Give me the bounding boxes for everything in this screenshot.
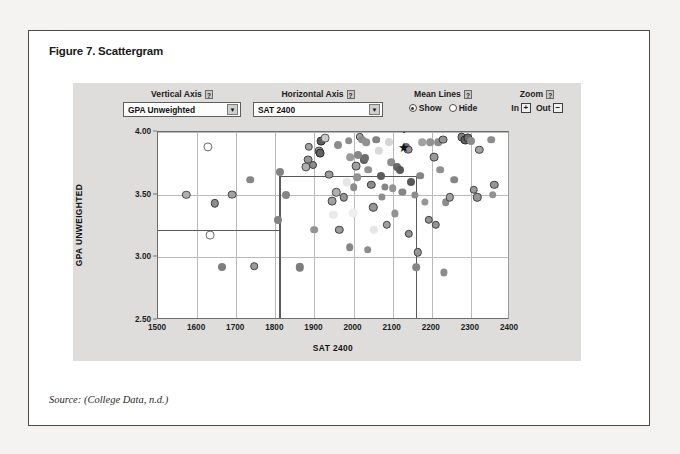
scatter-point[interactable] — [340, 193, 348, 201]
scatter-point[interactable] — [475, 145, 483, 153]
scatter-plot-canvas[interactable]: ★⬇YOU ARE HERE — [157, 131, 509, 319]
horizontal-axis-select[interactable]: SAT 2400 ▼ — [253, 102, 383, 117]
x-axis-tick-label: 1900 — [304, 323, 322, 332]
mean-lines-label: Mean Lines — [414, 89, 461, 99]
scatter-point[interactable] — [412, 264, 420, 272]
scatter-point[interactable] — [361, 154, 369, 162]
scatter-point[interactable] — [309, 161, 317, 169]
radio-icon-hide[interactable] — [449, 104, 457, 112]
zoom-out-item[interactable]: Out − — [536, 103, 563, 113]
mean-lines-radio-hide[interactable]: Hide — [449, 103, 478, 113]
chevron-down-icon-horizontal-axis[interactable]: ▼ — [369, 104, 380, 115]
scatter-point[interactable] — [329, 211, 337, 219]
scatter-point[interactable] — [407, 178, 415, 186]
scatter-point[interactable] — [282, 191, 290, 199]
chevron-down-icon-vertical-axis[interactable]: ▼ — [227, 104, 238, 115]
y-axis-tick-label: 3.50 — [135, 189, 151, 198]
scatter-point[interactable] — [431, 221, 439, 229]
scatter-point[interactable] — [438, 135, 447, 144]
scatter-point[interactable] — [218, 263, 226, 271]
mean-line-segment — [279, 176, 416, 177]
y-axis-tick-label: 3.00 — [135, 252, 151, 261]
scatter-point[interactable] — [295, 263, 303, 271]
scatter-point[interactable] — [334, 141, 342, 149]
you-are-here-arrow-icon: ⬇ — [399, 131, 409, 135]
scatter-point[interactable] — [430, 153, 439, 162]
scatter-point[interactable] — [490, 180, 498, 188]
scatter-point[interactable] — [419, 138, 427, 146]
scatter-point[interactable] — [369, 203, 377, 211]
scatter-point[interactable] — [377, 172, 385, 180]
scatter-point[interactable] — [274, 216, 282, 224]
x-axis-tick-label: 1700 — [226, 323, 244, 332]
scatter-point[interactable] — [487, 136, 495, 144]
scatter-point[interactable] — [372, 136, 380, 144]
scatter-point[interactable] — [396, 166, 404, 174]
scatter-point[interactable] — [311, 226, 319, 234]
mean-lines-show-label: Show — [419, 103, 442, 113]
scatter-point[interactable] — [228, 190, 237, 199]
scatter-point[interactable] — [383, 221, 391, 229]
scatter-point[interactable] — [250, 262, 258, 270]
scatter-point[interactable] — [211, 199, 219, 207]
scatter-point[interactable] — [367, 180, 375, 188]
zoom-out-icon[interactable]: − — [553, 103, 563, 113]
scatter-point[interactable] — [246, 176, 254, 184]
scatter-point[interactable] — [489, 191, 497, 199]
scatter-point[interactable] — [473, 193, 481, 201]
scatter-point[interactable] — [316, 149, 325, 158]
zoom-in-item[interactable]: In + — [511, 103, 531, 113]
scatter-point[interactable] — [182, 190, 190, 198]
zoom-in-icon[interactable]: + — [521, 103, 531, 113]
scatter-point[interactable] — [203, 142, 212, 151]
scatter-point[interactable] — [276, 168, 284, 176]
scatter-point[interactable] — [362, 138, 370, 146]
scatter-point[interactable] — [405, 229, 413, 237]
scatter-point[interactable] — [206, 230, 215, 239]
mean-lines-control: Mean Lines ? Show Hide — [393, 89, 493, 113]
x-axis-tick-label: 2000 — [343, 323, 361, 332]
scatter-point[interactable] — [437, 166, 445, 174]
scatter-point[interactable] — [354, 173, 362, 181]
scatter-point[interactable] — [413, 248, 421, 256]
scatter-point[interactable] — [345, 137, 353, 145]
scatter-point[interactable] — [351, 161, 360, 170]
scatter-point[interactable] — [381, 184, 388, 191]
scatter-point[interactable] — [325, 170, 334, 179]
scatter-point[interactable] — [350, 183, 358, 191]
vertical-axis-select[interactable]: GPA Unweighted ▼ — [123, 102, 241, 117]
scatter-point[interactable] — [346, 244, 354, 252]
scatter-point[interactable] — [364, 246, 372, 254]
gridline-vertical — [275, 132, 276, 318]
scatter-point[interactable] — [426, 138, 434, 146]
mean-lines-radio-show[interactable]: Show — [409, 103, 442, 113]
scatter-point[interactable] — [347, 153, 355, 161]
scatter-point[interactable] — [304, 143, 312, 151]
scatter-point[interactable] — [378, 194, 385, 201]
scatter-point[interactable] — [391, 210, 398, 217]
scatter-point[interactable] — [321, 134, 330, 143]
scatter-point[interactable] — [451, 176, 459, 184]
scatter-point[interactable] — [335, 226, 343, 234]
radio-icon-show[interactable] — [409, 104, 417, 112]
scatter-point[interactable] — [440, 269, 447, 276]
zoom-control: Zoom ? In + Out − — [497, 89, 577, 113]
help-icon-horizontal-axis[interactable]: ? — [347, 90, 355, 99]
zoom-label: Zoom — [520, 89, 543, 99]
scatter-point[interactable] — [467, 137, 475, 145]
scatter-point[interactable] — [385, 138, 393, 146]
scatter-point[interactable] — [421, 199, 428, 206]
scatter-point[interactable] — [389, 185, 397, 193]
scatter-point[interactable] — [348, 209, 357, 218]
scatter-point[interactable] — [328, 197, 337, 206]
mean-lines-radio-group: Show Hide — [393, 103, 493, 113]
help-icon-mean-lines[interactable]: ? — [464, 90, 472, 99]
help-icon-zoom[interactable]: ? — [546, 90, 554, 99]
scatter-point[interactable] — [374, 147, 382, 155]
chart-area: GPA UNWEIGHTED SAT 2400 2.503.003.504.00… — [73, 129, 581, 361]
scatter-point[interactable] — [370, 226, 378, 234]
scatter-point[interactable] — [365, 166, 373, 174]
scatter-point[interactable] — [416, 172, 424, 180]
scatter-point[interactable] — [446, 193, 454, 201]
help-icon-vertical-axis[interactable]: ? — [205, 90, 213, 99]
